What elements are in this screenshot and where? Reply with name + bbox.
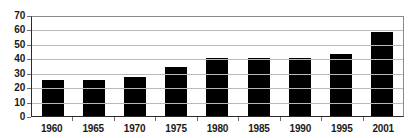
y-axis-tick-mark [27, 103, 31, 104]
x-axis-tick-labels: 196019651970197519801985199019952001 [31, 123, 404, 134]
y-axis-tick-label: 0 [0, 112, 25, 122]
x-axis-tick-label: 2001 [363, 123, 404, 134]
y-axis-tick-mark [27, 74, 31, 75]
x-axis-tick-mark [238, 117, 239, 121]
gridline [32, 103, 403, 104]
x-axis-tick-mark [363, 117, 364, 121]
x-axis-tick-label: 1965 [73, 123, 114, 134]
x-axis-tick-label: 1990 [280, 123, 321, 134]
bar [42, 80, 64, 116]
x-axis-tick-mark [114, 117, 115, 121]
bar-series [32, 17, 403, 116]
bar [124, 77, 146, 116]
y-axis-tick-mark [27, 117, 31, 118]
x-axis-tick-mark [280, 117, 281, 121]
x-axis-tick-label: 1995 [321, 123, 362, 134]
x-axis-tick-label: 1960 [31, 123, 72, 134]
y-axis-tick-labels: 706050403020100 [0, 0, 25, 138]
y-axis-tick-mark [27, 45, 31, 46]
y-axis-tick-label: 20 [0, 83, 25, 93]
bar [330, 54, 352, 116]
bar [248, 58, 270, 116]
plot-area [31, 16, 404, 117]
gridline [32, 74, 403, 75]
x-axis-tick-mark [72, 117, 73, 121]
y-axis-tick-label: 50 [0, 40, 25, 50]
bar [206, 58, 228, 116]
x-axis-tick-mark [321, 117, 322, 121]
y-axis-tick-label: 10 [0, 98, 25, 108]
x-axis-tick-mark [155, 117, 156, 121]
x-axis-tick-label: 1980 [197, 123, 238, 134]
x-axis-tick-label: 1970 [114, 123, 155, 134]
bar-chart: 706050403020100 196019651970197519801985… [0, 0, 413, 138]
y-axis-tick-label: 60 [0, 25, 25, 35]
x-axis-tick-label: 1985 [238, 123, 279, 134]
bar [83, 80, 105, 116]
x-axis-tick-mark [197, 117, 198, 121]
bar [289, 58, 311, 116]
y-axis-tick-label: 70 [0, 11, 25, 21]
x-axis-tick-label: 1975 [156, 123, 197, 134]
y-axis-tick-mark [27, 88, 31, 89]
y-axis-tick-mark [27, 59, 31, 60]
gridline [32, 59, 403, 60]
gridline [32, 30, 403, 31]
y-axis-tick-label: 30 [0, 69, 25, 79]
y-axis-tick-label: 40 [0, 54, 25, 64]
gridline [32, 88, 403, 89]
y-axis-tick-mark [27, 30, 31, 31]
y-axis-tick-mark [27, 16, 31, 17]
gridline [32, 45, 403, 46]
